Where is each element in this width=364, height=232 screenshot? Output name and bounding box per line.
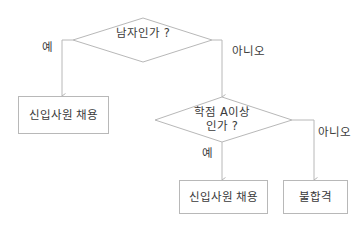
process-text-hire-1: 신입사원 채용 <box>18 96 109 134</box>
edge-no-to-grade-check <box>212 40 222 97</box>
edge-yes-to-hire-1 <box>62 40 73 96</box>
process-label: 신입사원 채용 <box>189 190 259 204</box>
edge-label-yes-2: 예 <box>202 146 213 160</box>
edge-label-no-1: 아니오 <box>232 44 265 58</box>
process-label: 신입사원 채용 <box>29 108 99 122</box>
decision-line: 남자인가 ? <box>116 26 170 40</box>
edge-label-yes-1: 예 <box>42 40 53 54</box>
decision-text-grade-a: 학점 A이상 인가 ? <box>180 104 264 134</box>
edge-no-to-reject <box>292 120 314 180</box>
edge-label-no-2: 아니오 <box>318 125 351 139</box>
decision-line: 학점 A이상 <box>194 105 250 119</box>
decision-diamond-is-male <box>73 18 212 62</box>
process-text-hire-2: 신입사원 채용 <box>179 180 268 214</box>
decision-line: 인가 ? <box>206 119 238 133</box>
decision-text-is-male: 남자인가 ? <box>103 26 183 40</box>
process-label: 불합격 <box>299 190 332 204</box>
process-text-reject: 불합격 <box>283 180 348 214</box>
